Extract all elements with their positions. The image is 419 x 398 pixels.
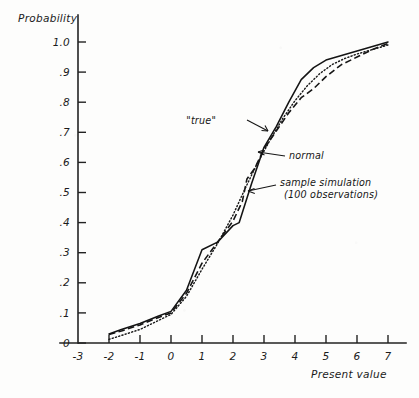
x-ticklabel: -1 bbox=[135, 350, 146, 362]
y-ticklabel: 0 bbox=[63, 337, 70, 349]
y-ticklabel: .8 bbox=[60, 96, 71, 108]
cdf-plot: 0.1.2.3.4.5.6.7.8.91.0 -3-2-101234567 Pr… bbox=[0, 0, 419, 398]
x-ticklabel: 7 bbox=[385, 350, 392, 362]
y-ticklabel: .6 bbox=[60, 156, 71, 168]
y-ticklabel: .2 bbox=[60, 276, 71, 288]
x-ticklabel: 4 bbox=[292, 350, 299, 362]
x-axis-title: Present value bbox=[311, 368, 387, 380]
x-ticklabel: 0 bbox=[168, 350, 175, 362]
y-ticklabel: .7 bbox=[60, 126, 71, 138]
annotation-sample-line1: sample simulation bbox=[280, 177, 371, 188]
sample-leader-line bbox=[248, 185, 276, 191]
y-axis-ticklabels: 0.1.2.3.4.5.6.7.8.91.0 bbox=[53, 36, 70, 349]
x-ticklabel: 5 bbox=[323, 350, 330, 362]
annotation-normal: normal bbox=[289, 150, 324, 161]
y-axis-title: Probability bbox=[18, 12, 78, 24]
y-ticklabel: .1 bbox=[60, 307, 70, 319]
annotation-sample-line2: (100 observations) bbox=[284, 189, 378, 200]
figure-canvas: 0.1.2.3.4.5.6.7.8.91.0 -3-2-101234567 Pr… bbox=[0, 0, 419, 398]
x-ticklabel: 2 bbox=[230, 350, 237, 362]
x-ticklabel: 1 bbox=[199, 350, 206, 362]
y-ticklabel: 1.0 bbox=[53, 36, 70, 48]
y-ticklabel: .4 bbox=[60, 216, 70, 228]
y-ticklabel: .3 bbox=[60, 246, 70, 258]
x-ticklabel: -2 bbox=[104, 350, 115, 362]
x-ticklabel: 6 bbox=[354, 350, 361, 362]
x-axis-ticklabels: -3-2-101234567 bbox=[73, 350, 392, 362]
x-ticklabel: 3 bbox=[261, 350, 268, 362]
y-ticklabel: .9 bbox=[60, 66, 71, 78]
x-ticklabel: -3 bbox=[73, 350, 84, 362]
true-leader-line bbox=[247, 120, 268, 131]
x-axis-ticks bbox=[109, 335, 388, 343]
y-axis-ticks bbox=[78, 42, 86, 343]
y-ticklabel: .5 bbox=[60, 186, 71, 198]
annotation-true: "true" bbox=[186, 115, 216, 126]
